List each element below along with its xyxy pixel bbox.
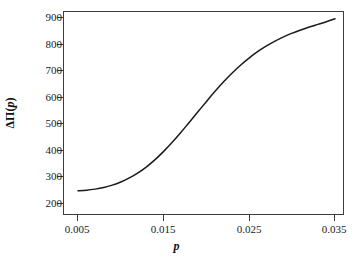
- xtick-label-0035: 0.035: [304, 224, 353, 235]
- data-curve: [64, 12, 345, 216]
- ytick-label-200: 200: [22, 198, 62, 209]
- y-label-delta: Δ: [3, 121, 17, 129]
- plot-area: [63, 11, 344, 215]
- xtick-mark: [77, 215, 78, 221]
- clipped-top-text: [60, 0, 340, 5]
- xtick-mark: [334, 215, 335, 221]
- y-label-variable: p: [3, 102, 17, 108]
- y-axis-label: ΔΠ(p): [4, 98, 16, 129]
- y-axis-label-wrapper: ΔΠ(p): [0, 48, 45, 178]
- chart-figure: 900 800 700 600 500 400 300 200 0.005 0.…: [0, 0, 353, 258]
- xtick-label-0015: 0.015: [133, 224, 193, 235]
- x-axis-label: p: [0, 240, 353, 252]
- ytick-label-900: 900: [22, 12, 62, 23]
- xtick-label-0025: 0.025: [219, 224, 279, 235]
- xtick-mark: [163, 215, 164, 221]
- xtick-label-0005: 0.005: [47, 224, 107, 235]
- curve-path: [78, 19, 335, 191]
- y-label-pi: Π: [3, 112, 17, 121]
- y-label-paren-close: ): [3, 98, 17, 102]
- xtick-mark: [249, 215, 250, 221]
- y-label-paren-open: (: [3, 108, 17, 112]
